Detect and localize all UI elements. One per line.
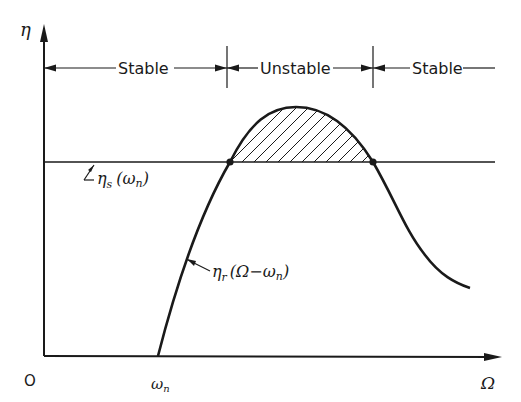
intersection-point-left	[226, 158, 233, 165]
y-axis	[40, 24, 48, 356]
eta-r-label: ηr(Ω−ωn)	[212, 262, 289, 284]
region-label-stable-right: Stable	[412, 59, 463, 78]
eta-r-curve	[158, 107, 470, 356]
unstable-hatch	[208, 92, 432, 172]
intersection-point-right	[369, 158, 376, 165]
origin-label: O	[24, 372, 36, 390]
omega-n-tick-label: ωn	[151, 375, 170, 394]
y-axis-label: η	[20, 19, 31, 40]
eta-r-leader	[187, 259, 210, 271]
region-label-unstable: Unstable	[260, 59, 331, 78]
eta-s-leader	[84, 165, 94, 180]
region-label-stable-left: Stable	[118, 59, 169, 78]
stability-diagram: η O Ω ωn Stable Unstable Stable	[0, 0, 521, 402]
x-axis	[44, 353, 502, 361]
eta-s-label: ηs(ωn)	[97, 169, 149, 191]
x-axis-label: Ω	[480, 373, 495, 393]
